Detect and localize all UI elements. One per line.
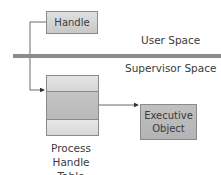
- process-handle-table: [46, 75, 99, 136]
- caption-line-2: Table: [31, 169, 111, 175]
- table-row-selected: [47, 91, 98, 120]
- executive-object-box: Executive Object: [140, 104, 197, 140]
- user-space-label: User Space: [141, 34, 200, 46]
- table-row: [47, 76, 98, 91]
- caption-line-1: Process Handle: [31, 141, 111, 169]
- exec-line-2: Object: [144, 122, 193, 135]
- space-separator: [13, 54, 221, 58]
- handle-box: Handle: [46, 11, 98, 34]
- handle-label: Handle: [54, 17, 89, 28]
- table-caption: Process Handle Table: [31, 141, 111, 175]
- exec-line-1: Executive: [144, 109, 193, 122]
- table-row: [47, 120, 98, 135]
- supervisor-space-label: Supervisor Space: [125, 62, 216, 74]
